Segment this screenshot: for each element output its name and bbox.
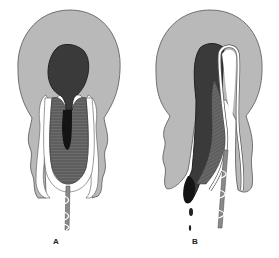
panel-label-a: A [46,237,66,246]
drop-1-b [189,208,193,216]
cord-a [65,186,70,230]
panel-a: A [0,0,140,258]
panel-label-b: B [185,237,205,246]
drop-2-b [189,225,191,231]
panel-b: B [140,0,279,258]
diagram-a-illustration [0,0,140,258]
diagram-b-illustration [140,0,279,258]
